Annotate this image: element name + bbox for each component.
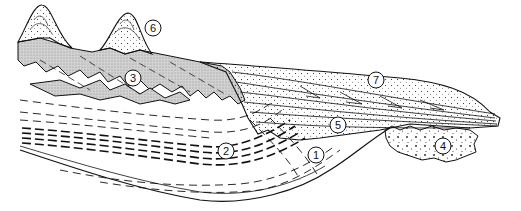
- svg-text:2: 2: [223, 145, 229, 157]
- svg-text:3: 3: [130, 72, 136, 84]
- geological-cross-section: 1 2 3 4 5 6 7: [0, 0, 521, 211]
- label-7: 7: [368, 72, 384, 88]
- label-3: 3: [125, 70, 141, 86]
- svg-text:4: 4: [440, 140, 446, 152]
- label-4: 4: [435, 138, 451, 154]
- svg-text:5: 5: [335, 119, 341, 131]
- label-1: 1: [308, 147, 324, 163]
- label-5: 5: [330, 117, 346, 133]
- unit-4-coarse-lens: [385, 126, 478, 162]
- svg-text:1: 1: [313, 149, 319, 161]
- label-2: 2: [218, 143, 234, 159]
- svg-text:6: 6: [150, 22, 156, 34]
- label-6: 6: [145, 20, 161, 36]
- svg-text:7: 7: [373, 74, 379, 86]
